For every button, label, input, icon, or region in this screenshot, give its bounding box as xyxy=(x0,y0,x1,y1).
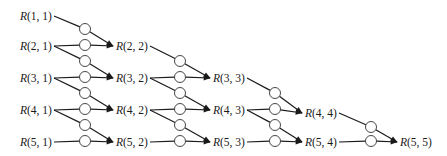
edge-r21-to-circle xyxy=(54,46,80,59)
edge-r42-to-circle xyxy=(150,110,175,123)
arrow-to-r42 xyxy=(90,109,113,110)
arrow-to-r52 xyxy=(90,141,113,142)
process-circle xyxy=(270,104,281,115)
edge-r21-to-circle xyxy=(54,45,80,46)
edge-r31-to-circle xyxy=(54,77,80,78)
process-circle xyxy=(80,88,91,99)
edge-r43-to-circle xyxy=(247,110,270,122)
node-r52: R(5, 2) xyxy=(115,136,148,149)
edge-r42-to-circle xyxy=(150,109,175,110)
process-circle xyxy=(175,72,186,83)
node-r11: R(1, 1) xyxy=(19,10,52,23)
node-r22: R(2, 2) xyxy=(115,40,148,53)
arrow-to-r33 xyxy=(185,77,210,78)
edge-r41-to-circle xyxy=(54,110,80,123)
arrow-to-r52 xyxy=(90,128,113,142)
process-circle xyxy=(80,136,91,147)
process-circle xyxy=(175,56,186,67)
node-r33: R(3, 3) xyxy=(212,72,245,85)
arrow-to-r32 xyxy=(90,64,113,78)
arrow-to-r53 xyxy=(185,141,210,142)
process-circle xyxy=(175,88,186,99)
node-r51: R(5, 1) xyxy=(19,136,52,149)
process-circle xyxy=(175,104,186,115)
process-circle xyxy=(175,120,186,131)
arrow-to-r53 xyxy=(185,128,210,142)
romberg-diagram: R(1, 1)R(2, 1)R(3, 1)R(4, 1)R(5, 1)R(2, … xyxy=(0,0,447,156)
node-r41: R(4, 1) xyxy=(19,104,52,117)
arrow-to-r42 xyxy=(90,96,113,110)
node-r21: R(2, 1) xyxy=(19,40,52,53)
node-r32: R(3, 2) xyxy=(115,72,148,85)
node-r54: R(5, 4) xyxy=(304,136,337,149)
edge-r54-to-circle xyxy=(339,141,366,142)
edge-r32-to-circle xyxy=(150,77,175,78)
process-circle xyxy=(80,72,91,83)
arrow-to-r32 xyxy=(90,77,113,78)
edge-r32-to-circle xyxy=(150,78,175,91)
process-circle xyxy=(270,136,281,147)
arrow-to-r55 xyxy=(376,141,397,142)
process-circle xyxy=(80,40,91,51)
process-circle xyxy=(270,120,281,131)
process-circle xyxy=(80,104,91,115)
node-r53: R(5, 3) xyxy=(212,136,245,149)
node-r44: R(4, 4) xyxy=(304,107,337,120)
arrow-to-r55 xyxy=(376,130,397,142)
arrow-to-r33 xyxy=(185,64,210,78)
arrow-to-r54 xyxy=(280,141,302,142)
edge-r41-to-circle xyxy=(54,109,80,110)
node-r55: R(5, 5) xyxy=(399,136,432,149)
edge-r33-to-circle xyxy=(247,78,270,90)
process-circle xyxy=(175,136,186,147)
edge-r11-to-circle xyxy=(54,16,80,27)
process-circle xyxy=(366,122,377,133)
arrow-to-r22 xyxy=(90,32,113,46)
edge-r51-to-circle xyxy=(54,141,80,142)
node-r31: R(3, 1) xyxy=(19,72,52,85)
arrow-to-r43 xyxy=(185,96,210,110)
node-r42: R(4, 2) xyxy=(115,104,148,117)
arrow-to-r43 xyxy=(185,109,210,110)
arrow-to-r54 xyxy=(280,128,302,142)
arrow-to-r22 xyxy=(90,45,113,46)
node-r43: R(4, 3) xyxy=(212,104,245,117)
edge-r22-to-circle xyxy=(150,46,175,59)
process-circle xyxy=(366,136,377,147)
process-circle xyxy=(80,56,91,67)
process-circle xyxy=(80,24,91,35)
process-circle xyxy=(270,88,281,99)
edge-r53-to-circle xyxy=(247,141,270,142)
edge-r44-to-circle xyxy=(339,113,366,125)
edge-r43-to-circle xyxy=(247,109,270,110)
edge-r52-to-circle xyxy=(150,141,175,142)
process-circle xyxy=(80,120,91,131)
edge-r31-to-circle xyxy=(54,78,80,91)
